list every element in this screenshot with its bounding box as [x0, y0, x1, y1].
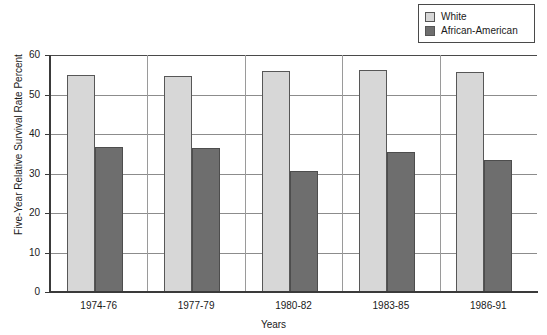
bar-group: [456, 55, 512, 292]
bar: [95, 147, 123, 292]
bar: [456, 72, 484, 292]
y-axis-title: Five-Year Relative Survival Rate Percent: [13, 45, 24, 245]
bar-group: [67, 55, 123, 292]
category-separator: [342, 55, 343, 292]
category-separator: [147, 55, 148, 292]
category-separator: [440, 55, 441, 292]
legend-label-african-american: African-American: [441, 25, 518, 36]
y-tick-20: [45, 213, 50, 214]
y-tick-10: [45, 253, 50, 254]
bar: [67, 75, 95, 292]
bar-group: [164, 55, 220, 292]
legend-swatch-white: [425, 12, 435, 22]
y-tick-60: [45, 55, 50, 56]
x-axis-label-1986-91: 1986-91: [470, 300, 507, 311]
legend-item-african-american: African-American: [425, 24, 528, 37]
y-tick-40: [45, 134, 50, 135]
y-tick-50: [45, 95, 50, 96]
y-tick-30: [45, 174, 50, 175]
x-axis-label-1980-82: 1980-82: [275, 300, 312, 311]
plot-area: [50, 55, 537, 292]
bars-layer: [50, 55, 537, 292]
category-separator: [245, 55, 246, 292]
bar: [164, 76, 192, 292]
bar-chart-figure: White African-American 0102030405060 197…: [0, 0, 547, 335]
bar: [387, 152, 415, 292]
x-axis-title: Years: [0, 319, 547, 330]
y-tick-0: [45, 292, 50, 293]
x-axis-label-1977-79: 1977-79: [178, 300, 215, 311]
bar: [359, 70, 387, 292]
bar: [192, 148, 220, 292]
legend-label-white: White: [441, 11, 467, 22]
chart-legend: White African-American: [418, 4, 535, 43]
bar-group: [359, 55, 415, 292]
bar: [484, 160, 512, 292]
x-axis-line: [49, 291, 538, 293]
legend-swatch-african-american: [425, 26, 435, 36]
bar: [262, 71, 290, 292]
legend-item-white: White: [425, 10, 528, 23]
bar-group: [262, 55, 318, 292]
y-axis-label-0: 0: [0, 287, 40, 297]
y-axis-label-10: 10: [0, 248, 40, 258]
bar: [290, 171, 318, 292]
x-axis-label-1983-85: 1983-85: [373, 300, 410, 311]
x-axis-label-1974-76: 1974-76: [80, 300, 117, 311]
